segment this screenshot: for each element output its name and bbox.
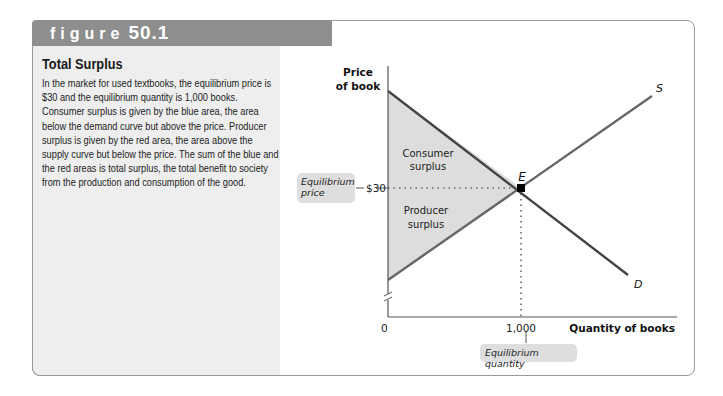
y-axis-label-line2: of book xyxy=(336,80,381,92)
price-tick-label: $30 xyxy=(366,182,386,194)
equilibrium-price-line2: price xyxy=(301,187,351,198)
x-axis-label: Quantity of books xyxy=(569,322,675,334)
origin-label: 0 xyxy=(381,322,388,334)
y-axis-label-line1: Price xyxy=(343,66,373,78)
surplus-chart: Price of book Quantity of books 0 $30 1,… xyxy=(0,0,723,396)
producer-surplus-label-line1: Producer xyxy=(404,205,449,216)
equilibrium-point xyxy=(517,184,525,192)
equilibrium-price-line1: Equilibrium xyxy=(301,176,351,187)
equilibrium-label: E xyxy=(518,170,526,184)
quantity-tick-label: 1,000 xyxy=(506,322,536,334)
supply-label: S xyxy=(656,82,663,95)
demand-label: D xyxy=(634,278,642,291)
equilibrium-quantity-annotation: Equilibrium quantity xyxy=(480,344,577,362)
consumer-surplus-label-line2: surplus xyxy=(410,161,446,172)
consumer-surplus-label-line1: Consumer xyxy=(403,148,455,159)
producer-surplus-label-line2: surplus xyxy=(408,219,444,230)
equilibrium-price-annotation: Equilibrium price xyxy=(297,173,355,203)
